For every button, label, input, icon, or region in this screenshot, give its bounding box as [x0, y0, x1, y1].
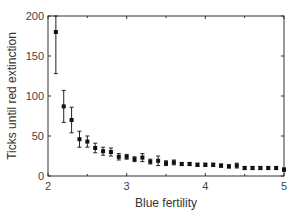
data-point: [140, 156, 144, 160]
chart-plot: 2345050100150200 Blue fertility Ticks un…: [0, 0, 300, 219]
data-point: [219, 164, 223, 168]
data-point: [203, 163, 207, 167]
data-point: [117, 155, 121, 159]
y-tick-label: 200: [26, 10, 44, 22]
x-tick-label: 5: [281, 180, 287, 192]
data-point: [235, 164, 239, 168]
data-point: [258, 166, 262, 170]
data-point: [156, 159, 160, 163]
data-point: [211, 163, 215, 167]
data-point: [164, 161, 168, 165]
x-axis-label: Blue fertility: [135, 196, 197, 210]
data-point: [172, 160, 176, 164]
data-point: [266, 166, 270, 170]
y-tick-label: 150: [26, 50, 44, 62]
data-point: [54, 30, 58, 34]
data-point: [227, 164, 231, 168]
plot-axes: 2345050100150200: [26, 10, 287, 192]
y-tick-label: 0: [38, 170, 44, 182]
data-point: [109, 150, 113, 154]
data-point: [188, 162, 192, 166]
data-point: [195, 163, 199, 167]
y-tick-label: 50: [32, 130, 44, 142]
data-point: [70, 118, 74, 122]
x-tick-label: 3: [124, 180, 130, 192]
data-point: [282, 168, 286, 172]
data-point: [148, 160, 152, 164]
data-points: [54, 16, 286, 172]
y-axis-label: Ticks until red extinction: [5, 32, 19, 160]
data-point: [251, 166, 255, 170]
data-point: [125, 155, 129, 159]
data-point: [180, 162, 184, 166]
y-tick-label: 100: [26, 90, 44, 102]
data-point: [101, 149, 105, 153]
x-tick-label: 4: [202, 180, 208, 192]
data-point: [85, 140, 89, 144]
data-point: [62, 104, 66, 108]
data-point: [77, 137, 81, 141]
data-point: [243, 166, 247, 170]
data-point: [133, 157, 137, 161]
x-tick-label: 2: [45, 180, 51, 192]
data-point: [93, 146, 97, 150]
data-point: [274, 166, 278, 170]
